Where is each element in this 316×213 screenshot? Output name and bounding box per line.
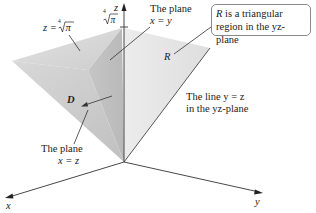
z-axis-label: z [113, 2, 118, 13]
callout-line1-text: is a triangular [222, 8, 282, 19]
top-surface-label: z = 4 π [42, 18, 74, 33]
plane-xz-label-line2: x = z [57, 155, 79, 166]
region-d-label: D [66, 94, 75, 105]
plane-xz-label-line1: The plane [41, 143, 83, 154]
svg-text:4: 4 [103, 8, 106, 14]
region-r-callout: R is a triangular region in the yz-plane [211, 4, 311, 36]
svg-text:π: π [111, 15, 116, 25]
svg-text:4: 4 [58, 18, 61, 24]
y-axis [124, 162, 259, 192]
line-yz-label-line1: The line y = z [186, 91, 245, 102]
callout-line2: region in the yz-plane [216, 20, 306, 46]
plane-xy-label-line2: x = y [149, 15, 172, 26]
region-r-label: R [163, 51, 171, 62]
plane-xy-label-line1: The plane [150, 3, 192, 14]
y-axis-arrow-icon [254, 190, 263, 195]
line-yz-label-line2: in the yz-plane [186, 103, 249, 114]
svg-text:z =: z = [42, 22, 57, 33]
svg-text:π: π [66, 22, 72, 33]
x-axis [9, 162, 124, 197]
y-axis-label: y [254, 196, 260, 207]
callout-line1: R is a triangular [216, 7, 306, 20]
z-axis-arrow-icon [122, 3, 127, 11]
x-axis-arrow-icon [5, 194, 14, 199]
x-axis-label: x [5, 200, 11, 211]
